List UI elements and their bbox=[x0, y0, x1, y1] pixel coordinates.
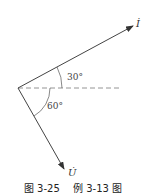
figure-caption: 图 3-25 例 3-13 图 bbox=[0, 180, 146, 195]
figure-number: 图 3-25 bbox=[24, 183, 60, 194]
angle-label-60: 60° bbox=[47, 101, 63, 111]
voltage-label: U̇ bbox=[68, 167, 77, 178]
angle-arc-30 bbox=[57, 67, 62, 88]
angle-label-30: 30° bbox=[67, 72, 83, 82]
current-label: İ bbox=[135, 18, 141, 29]
phasor-diagram: 30° 60° İ U̇ bbox=[0, 0, 146, 180]
figure-title: 例 3-13 图 bbox=[73, 183, 122, 194]
